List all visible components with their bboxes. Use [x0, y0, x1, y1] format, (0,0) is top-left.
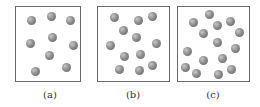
particle-sphere-icon: [135, 66, 144, 75]
particle-sphere-icon: [66, 16, 75, 25]
particle-sphere-icon: [226, 17, 235, 26]
particle-sphere-icon: [205, 10, 214, 19]
particle-sphere-icon: [120, 52, 129, 61]
particle-sphere-icon: [134, 16, 143, 25]
panel-b-label: (b): [118, 89, 148, 100]
particle-sphere-icon: [231, 44, 240, 53]
particle-sphere-icon: [48, 33, 57, 42]
particle-sphere-icon: [235, 28, 244, 37]
particle-sphere-icon: [213, 21, 222, 30]
particle-sphere-icon: [47, 12, 56, 21]
particle-sphere-icon: [152, 39, 161, 48]
particle-sphere-icon: [62, 63, 71, 72]
particle-sphere-icon: [192, 69, 201, 78]
particle-sphere-icon: [199, 56, 208, 65]
panel-c-label: (c): [198, 89, 228, 100]
particle-sphere-icon: [183, 47, 192, 56]
particle-sphere-icon: [218, 54, 227, 63]
particle-sphere-icon: [106, 41, 115, 50]
particle-sphere-icon: [213, 38, 222, 47]
particle-sphere-icon: [69, 41, 78, 50]
particle-sphere-icon: [27, 16, 36, 25]
particle-sphere-icon: [119, 26, 128, 35]
particle-sphere-icon: [132, 33, 141, 42]
particle-sphere-icon: [136, 50, 145, 59]
particle-sphere-icon: [115, 65, 124, 74]
particle-sphere-icon: [45, 51, 54, 60]
particle-sphere-icon: [199, 29, 208, 38]
panel-a-label: (a): [35, 89, 65, 100]
particle-sphere-icon: [110, 13, 119, 22]
particle-sphere-icon: [26, 39, 35, 48]
particle-sphere-icon: [214, 70, 223, 79]
particle-sphere-icon: [31, 67, 40, 76]
particle-sphere-icon: [227, 65, 236, 74]
particle-sphere-icon: [148, 12, 157, 21]
particle-sphere-icon: [181, 63, 190, 72]
particle-sphere-icon: [148, 61, 157, 70]
particle-sphere-icon: [189, 18, 198, 27]
